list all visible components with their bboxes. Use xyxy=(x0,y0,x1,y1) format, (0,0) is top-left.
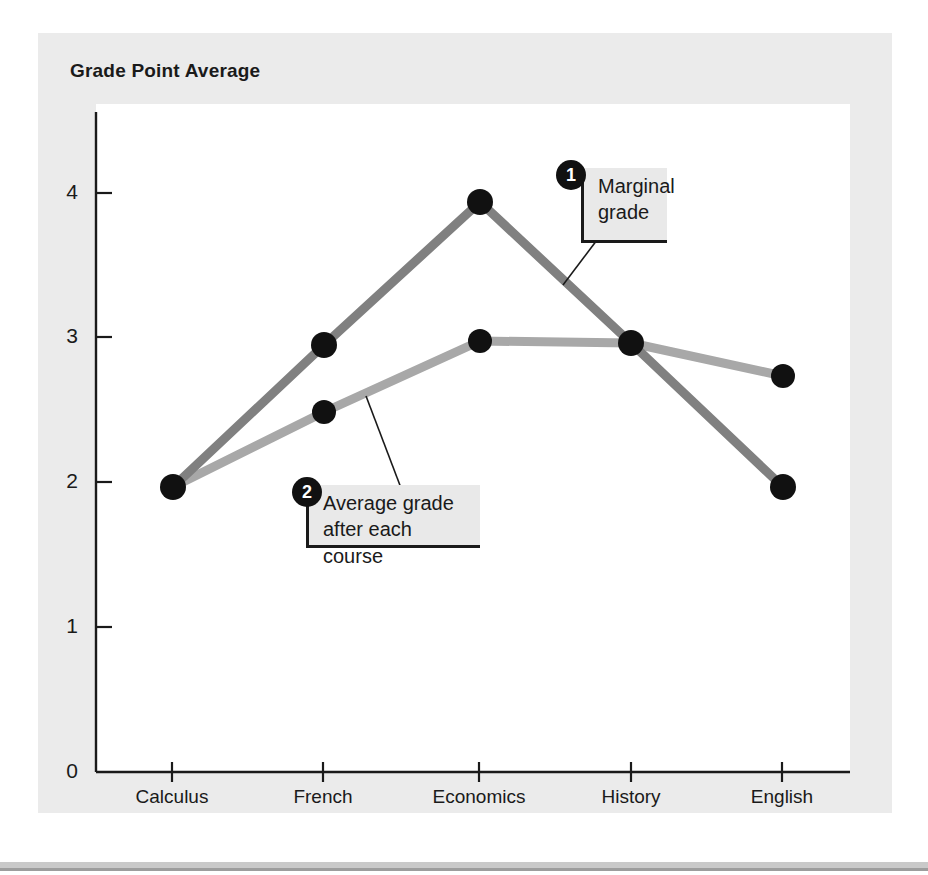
x-tick-label-economics: Economics xyxy=(399,786,559,808)
y-tick-label-0: 0 xyxy=(38,759,78,783)
x-tick-label-french: French xyxy=(243,786,403,808)
annotation-2-leader-line xyxy=(366,396,401,488)
annotation-2-callout: Average grade after each course xyxy=(306,485,480,548)
annotation-2-line-1: Average grade xyxy=(323,490,470,516)
annotation-2-line-2: after each course xyxy=(323,516,470,569)
annotation-1-leader-line xyxy=(563,240,597,285)
y-tick-label-3: 3 xyxy=(38,324,78,348)
annotation-1-line-1: Marginal xyxy=(598,173,657,199)
annotation-1-badge: 1 xyxy=(556,160,586,190)
annotation-2-badge: 2 xyxy=(292,477,322,507)
y-tick-label-1: 1 xyxy=(38,614,78,638)
series-line-average-grade xyxy=(173,341,783,487)
x-tick-label-history: History xyxy=(551,786,711,808)
y-tick-label-4: 4 xyxy=(38,180,78,204)
page-bottom-rule-secondary xyxy=(0,868,928,871)
annotation-1-callout: Marginal grade xyxy=(581,168,667,243)
y-axis-ticks xyxy=(96,193,112,627)
chart-plot-area xyxy=(0,0,928,875)
x-tick-label-calculus: Calculus xyxy=(92,786,252,808)
annotation-1-line-2: grade xyxy=(598,199,657,225)
x-tick-label-english: English xyxy=(702,786,862,808)
y-tick-label-2: 2 xyxy=(38,469,78,493)
